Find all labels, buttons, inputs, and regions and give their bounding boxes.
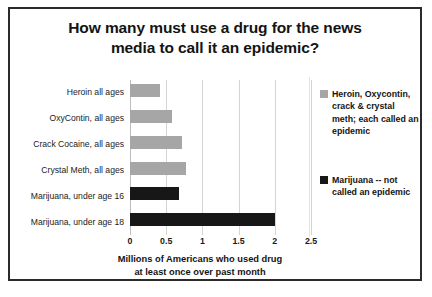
x-axis-ticks: 00.511.522.5 — [130, 237, 330, 251]
x-tick-label: 1.5 — [232, 237, 244, 246]
category-label: Crack Cocaine, all ages — [12, 140, 124, 149]
category-label: OxyContin, all ages — [12, 114, 124, 123]
legend-entry-other-drugs: Heroin, Oxycontin, crack & crystal meth;… — [320, 88, 420, 138]
bar-row — [130, 106, 311, 132]
x-axis-title-line-1: Millions of Americans who used drug — [50, 253, 350, 266]
legend-swatch-other-drugs — [320, 90, 328, 98]
chart-title-line-2: media to call it an epidemic? — [24, 38, 406, 58]
chart-legend: Heroin, Oxycontin, crack & crystal meth;… — [320, 88, 420, 199]
plot-area — [130, 80, 311, 235]
x-tick-label: 2 — [272, 237, 277, 246]
chart-title: How many must use a drug for the news me… — [24, 18, 406, 58]
category-label: Marijuana, under age 18 — [12, 218, 124, 227]
x-axis-title: Millions of Americans who used drug at l… — [50, 253, 350, 278]
bar-row — [130, 80, 311, 106]
x-tick-label: 0.5 — [160, 237, 172, 246]
bar-other-drugs — [130, 110, 172, 123]
legend-swatch-marijuana — [320, 176, 328, 184]
x-tick-label: 2.5 — [305, 237, 317, 246]
bar-other-drugs — [130, 84, 160, 97]
legend-entry-marijuana: Marijuana -- not called an epidemic — [320, 174, 420, 199]
x-axis-title-line-2: at least once over past month — [50, 266, 350, 279]
bar-row — [130, 209, 311, 235]
x-tick-label: 0 — [128, 237, 133, 246]
category-label: Heroin all ages — [12, 88, 124, 97]
category-axis: Heroin all agesOxyContin, all agesCrack … — [14, 80, 128, 235]
chart-frame: How many must use a drug for the news me… — [8, 7, 422, 281]
bar-row — [130, 158, 311, 184]
gridline-2.5 — [311, 80, 312, 235]
legend-label-other-drugs: Heroin, Oxycontin, crack & crystal meth;… — [332, 89, 419, 136]
x-tick-label: 1 — [200, 237, 205, 246]
bar-row — [130, 183, 311, 209]
bar-other-drugs — [130, 136, 182, 149]
category-label: Marijuana, under age 16 — [12, 192, 124, 201]
category-label: Crystal Meth, all ages — [12, 166, 124, 175]
legend-label-marijuana: Marijuana -- not called an epidemic — [332, 175, 410, 197]
chart-title-line-1: How many must use a drug for the news — [24, 18, 406, 38]
bar-marijuana — [130, 213, 275, 226]
bar-marijuana — [130, 187, 179, 200]
bar-other-drugs — [130, 162, 186, 175]
bar-row — [130, 132, 311, 158]
legend-divider — [309, 77, 310, 237]
